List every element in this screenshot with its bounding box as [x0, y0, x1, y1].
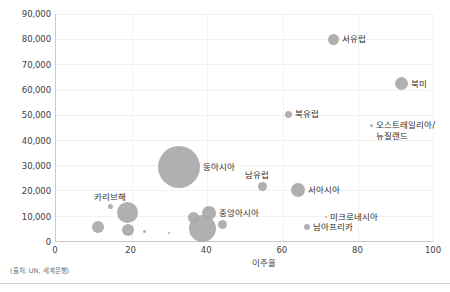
bubble-5 — [258, 182, 267, 191]
bubble-7 — [108, 204, 113, 209]
gridline-horizontal — [56, 39, 433, 40]
bubble-10 — [304, 224, 310, 230]
gridline-horizontal — [56, 90, 433, 91]
x-axis-tick-label: 60 — [262, 245, 302, 255]
gridline-vertical — [358, 14, 359, 241]
point-label: 북미 — [411, 79, 427, 89]
point-label: 미크로네시아 — [330, 212, 378, 222]
y-axis-tick-label: 90,000 — [3, 9, 51, 19]
point-label: 동아시아 — [203, 162, 235, 172]
gridline-vertical — [283, 14, 284, 241]
x-axis-title: 이주율 — [252, 256, 276, 268]
bubble-unlabeled-0 — [117, 202, 138, 223]
gridline-horizontal — [56, 14, 433, 15]
bubble-4 — [158, 146, 200, 188]
bubble-unlabeled-7 — [218, 220, 227, 229]
bubble-unlabeled-2 — [122, 224, 134, 236]
point-label: 남아프리카 — [313, 222, 353, 232]
bubble-2 — [285, 111, 292, 118]
bubble-unlabeled-6 — [189, 215, 216, 242]
y-axis-tick-label: 30,000 — [3, 161, 51, 171]
y-axis-tick-label: 10,000 — [3, 212, 51, 222]
bubble-unlabeled-4 — [168, 232, 170, 234]
source-note: (출처: UN, 세계은행) — [10, 265, 69, 275]
bottom-divider — [0, 283, 450, 284]
point-label: 카리브해 — [94, 192, 126, 202]
bubble-0 — [328, 34, 339, 45]
y-axis-tick-label: 20,000 — [3, 186, 51, 196]
gridline-horizontal — [56, 64, 433, 65]
x-axis-tick-label: 80 — [337, 245, 377, 255]
chart-figure: 010,00020,00030,00040,00050,00060,00070,… — [0, 0, 450, 292]
point-label: 중앙아시아 — [219, 208, 259, 218]
gridline-horizontal — [56, 115, 433, 116]
bubble-1 — [395, 77, 408, 90]
bubble-unlabeled-1 — [92, 221, 104, 233]
x-axis-tick-label: 0 — [35, 245, 75, 255]
bubble-6 — [291, 183, 305, 197]
bubble-9 — [325, 216, 327, 218]
y-axis-tick-label: 50,000 — [3, 110, 51, 120]
bubble-8 — [202, 206, 216, 220]
x-axis-tick-label: 40 — [186, 245, 226, 255]
point-label: 오스트레일리아/뉴질랜드 — [376, 120, 435, 141]
y-axis-tick-label: 60,000 — [3, 85, 51, 95]
point-label: 서유럽 — [342, 34, 366, 44]
point-label: 남유럽 — [245, 170, 269, 180]
y-axis-tick-label: 80,000 — [3, 34, 51, 44]
bubble-3 — [370, 124, 373, 127]
bubble-unlabeled-3 — [143, 230, 146, 233]
x-axis-tick-label: 100 — [413, 245, 450, 255]
point-label: 서아시아 — [308, 185, 340, 195]
gridline-horizontal — [56, 165, 433, 166]
y-axis-tick-label: 40,000 — [3, 136, 51, 146]
point-label: 북유럽 — [295, 109, 319, 119]
x-axis-tick-label: 20 — [111, 245, 151, 255]
y-axis-tick-label: 70,000 — [3, 60, 51, 70]
